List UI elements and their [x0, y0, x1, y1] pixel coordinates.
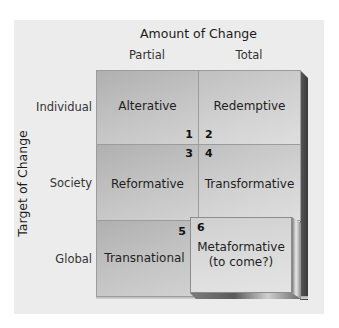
metaformative-3d-bottom [190, 293, 301, 299]
cell-metaformative: 6 Metaformative (to come?) [190, 217, 292, 293]
column-label-total: Total [198, 48, 300, 62]
row-label-society: Society [30, 176, 92, 190]
cell-transnational: 5 Transnational [96, 220, 199, 297]
cell-label: Alterative [97, 99, 198, 113]
cell-label: Redemptive [199, 99, 300, 113]
metaformative-3d-side [292, 217, 301, 299]
cell-number: 5 [178, 225, 186, 238]
grid-3d-side [300, 70, 308, 300]
cell-number: 2 [205, 128, 213, 141]
column-label-partial: Partial [96, 48, 198, 62]
cell-alterative: Alterative 1 [96, 70, 199, 145]
y-axis-title: Target of Change [15, 114, 30, 254]
metaformative-subtitle: (to come?) [191, 255, 291, 270]
row-label-global: Global [30, 252, 92, 266]
cell-transformative: 4 Transformative [198, 144, 301, 221]
cell-number: 3 [185, 147, 193, 160]
cell-number: 4 [205, 147, 213, 160]
cell-reformative: 3 Reformative [96, 144, 199, 221]
cell-label: Transnational [97, 251, 198, 265]
cell-label: Metaformative (to come?) [191, 240, 291, 270]
x-axis-title: Amount of Change [96, 26, 301, 41]
cell-label: Reformative [97, 177, 198, 191]
metaformative-title: Metaformative [191, 240, 291, 255]
row-label-individual: Individual [30, 100, 92, 114]
cell-redemptive: Redemptive 2 [198, 70, 301, 145]
cell-number: 1 [185, 128, 193, 141]
cell-number: 6 [197, 221, 205, 234]
cell-label: Transformative [199, 177, 300, 191]
